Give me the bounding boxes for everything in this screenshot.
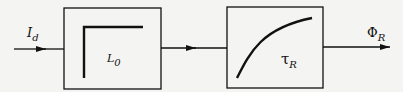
block-diagram	[0, 0, 403, 92]
block1-subscript: 0	[114, 57, 120, 68]
block1-label: L0	[107, 53, 121, 68]
output-subscript: R	[378, 32, 386, 43]
block2-label: τR	[281, 52, 297, 70]
output-label: ΦR	[367, 26, 385, 43]
block-step	[64, 8, 161, 89]
input-label: Id	[27, 26, 39, 43]
exponential-curve-icon	[237, 18, 312, 78]
output-symbol: Φ	[367, 25, 378, 40]
block2-subscript: R	[289, 59, 297, 70]
input-subscript: d	[32, 32, 38, 43]
